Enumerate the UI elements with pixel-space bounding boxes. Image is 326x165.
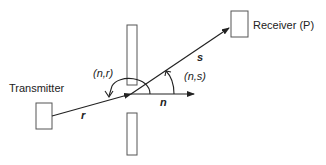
upper-slit-bar xyxy=(127,25,137,85)
vector-r-arrow xyxy=(52,94,131,116)
vector-s-label: s xyxy=(197,52,203,63)
vector-n-label: n xyxy=(160,97,167,108)
angle-nr-arrowhead xyxy=(105,91,113,97)
angle-ns-arc xyxy=(166,71,174,94)
angle-ns-label: (n,s) xyxy=(184,71,206,82)
receiver-label: Receiver (P) xyxy=(253,20,314,31)
transmitter-box xyxy=(36,103,52,129)
angle-nr-label: (n,r) xyxy=(93,68,113,79)
lower-slit-bar xyxy=(127,113,137,155)
vector-r-label: r xyxy=(81,110,85,121)
transmitter-label: Transmitter xyxy=(9,83,64,94)
receiver-box xyxy=(231,11,248,37)
